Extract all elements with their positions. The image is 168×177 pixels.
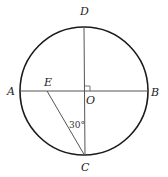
geometry-diagram: D A B E O C 30°	[0, 0, 168, 177]
label-a: A	[6, 85, 15, 98]
label-b: B	[150, 86, 159, 99]
diameter-dc	[84, 27, 85, 156]
label-o: O	[86, 94, 95, 107]
label-e: E	[43, 76, 52, 89]
label-c: C	[81, 161, 90, 174]
label-d: D	[79, 5, 89, 18]
angle-label-30: 30°	[69, 120, 85, 130]
